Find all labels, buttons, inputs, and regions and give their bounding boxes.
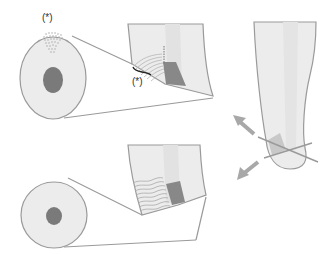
arrow-up-left-icon xyxy=(233,115,254,134)
bottom-panel xyxy=(21,145,206,248)
top-bracket-marker-label: (*) xyxy=(132,76,143,87)
bottom-disc-core xyxy=(46,207,62,225)
top-connector-lower xyxy=(64,98,213,118)
fingertip-panel xyxy=(233,22,318,180)
bottom-connector-side xyxy=(196,197,206,240)
top-panel xyxy=(20,24,213,119)
top-disc-marker-label: (*) xyxy=(42,12,53,23)
top-disc-core xyxy=(43,67,63,93)
arrow-down-left-icon xyxy=(237,162,258,180)
bottom-connector-lower xyxy=(64,240,196,247)
diagram-canvas xyxy=(0,0,332,254)
